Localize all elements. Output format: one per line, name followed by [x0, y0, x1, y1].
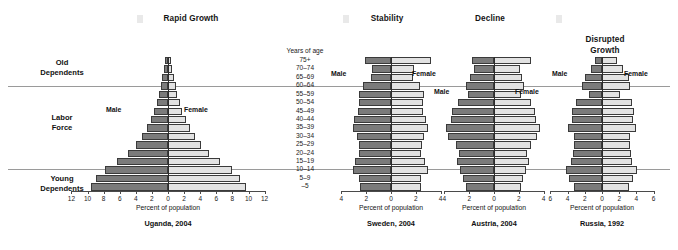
male-series-label: Male — [552, 70, 567, 77]
center-axis-line — [602, 57, 603, 192]
bar-female — [602, 124, 636, 131]
x-axis-tick — [636, 191, 637, 194]
x-axis-title: Percent of population — [542, 204, 662, 211]
bar-female — [602, 141, 630, 148]
pyramid-chart-russia: 6420246Percent of populationRussia, 1992… — [0, 0, 678, 250]
figure-canvas: Rapid Growth Stability Decline Disrupted… — [0, 0, 678, 250]
bar-male — [572, 108, 602, 115]
x-axis-tick-label: 4 — [560, 195, 576, 202]
bar-female — [602, 183, 629, 190]
bar-male — [572, 116, 602, 123]
bar-female — [602, 57, 617, 64]
bar-male — [568, 124, 602, 131]
bar-female — [602, 65, 623, 72]
bar-male — [566, 166, 602, 173]
x-axis-tick-label: 6 — [646, 195, 662, 202]
x-axis-tick — [619, 191, 620, 194]
bar-male — [582, 82, 602, 89]
x-axis-tick — [568, 191, 569, 194]
bar-female — [602, 158, 632, 165]
x-axis-tick-label: 0 — [594, 195, 610, 202]
x-axis-tick-label: 2 — [611, 195, 627, 202]
x-axis-tick-label: 6 — [542, 195, 558, 202]
panel-caption: Russia, 1992 — [542, 219, 662, 228]
bar-male — [571, 158, 602, 165]
bar-male — [569, 175, 602, 182]
bar-male — [589, 91, 602, 98]
bar-female — [602, 91, 620, 98]
bar-male — [595, 57, 602, 64]
bar-male — [574, 141, 602, 148]
bar-male — [576, 99, 602, 106]
bar-male — [574, 133, 602, 140]
bar-female — [602, 150, 631, 157]
bar-female — [602, 116, 633, 123]
x-axis-tick — [585, 191, 586, 194]
bar-male — [573, 150, 602, 157]
x-axis-tick-label: 4 — [628, 195, 644, 202]
bar-male — [574, 183, 602, 190]
bar-female — [602, 175, 633, 182]
bar-female — [602, 133, 630, 140]
bar-male — [591, 65, 602, 72]
bar-female — [602, 99, 632, 106]
bar-female — [602, 82, 630, 89]
x-axis-tick — [602, 191, 603, 194]
x-axis-tick — [654, 191, 655, 194]
x-axis-tick — [550, 191, 551, 194]
female-series-label: Female — [624, 70, 648, 77]
bar-female — [602, 166, 637, 173]
bar-male — [585, 74, 602, 81]
bar-female — [602, 108, 634, 115]
x-axis-tick-label: 2 — [577, 195, 593, 202]
